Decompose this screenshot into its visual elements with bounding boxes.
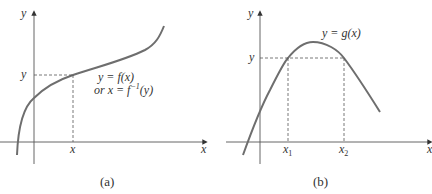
panel-b-x1-tick-label: x1 <box>282 142 292 158</box>
panel-a-caption: (a) <box>100 174 114 189</box>
panel-a-inverse-label: or x = f−1(y) <box>94 82 153 97</box>
panel-b-y-axis-label: y <box>247 6 254 20</box>
panel-b-x-axis-label: x <box>426 142 432 156</box>
diagram-canvas: y y x x y = f(x) or x = f−1(y) (a) y y x… <box>0 0 432 194</box>
panel-a-y-tick-label: y <box>20 67 27 81</box>
panel-b: y y x1 x2 x y = g(x) (b) <box>226 6 432 189</box>
panel-b-curve-label: y = g(x) <box>321 26 361 40</box>
panel-a: y y x x y = f(x) or x = f−1(y) (a) <box>0 6 207 189</box>
panel-a-x-axis-label: x <box>200 142 207 156</box>
panel-a-y-axis-label: y <box>20 6 27 20</box>
panel-b-caption: (b) <box>313 174 328 189</box>
panel-b-x2-tick-label: x2 <box>338 142 348 158</box>
panel-a-curve-label: y = f(x) <box>97 70 134 84</box>
panel-b-curve-g <box>243 42 380 155</box>
panel-a-x-tick-label: x <box>69 142 76 156</box>
panel-b-y-tick-label: y <box>248 50 255 64</box>
